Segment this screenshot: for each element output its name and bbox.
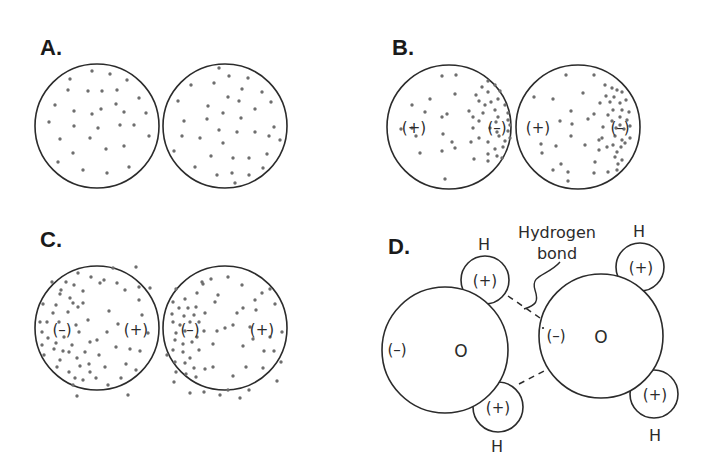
panels: A.B.(+)(–)(+)(–)C.(+)(–)(+)(–)D.O(–)(+)H… (35, 35, 678, 456)
electron-dot (96, 126, 99, 129)
electron-dot (506, 118, 509, 121)
electron-dot (209, 277, 212, 280)
electron-dot (194, 305, 197, 308)
electron-dot (64, 280, 67, 283)
electron-dot (73, 376, 76, 379)
electron-dot (173, 338, 176, 341)
electron-dot (89, 275, 92, 278)
electron-dot (606, 170, 609, 173)
panel-label: B. (392, 35, 414, 60)
electron-dot (605, 145, 608, 148)
electron-dot (260, 90, 263, 93)
electron-dot (481, 111, 484, 114)
electron-dot (569, 109, 572, 112)
panel-d: D.O(–)(+)H(+)HO(–)(+)H(+)HHydrogenbond (382, 222, 678, 456)
electron-dot (624, 98, 627, 101)
electron-dot (87, 362, 90, 365)
electron-dot (247, 388, 250, 391)
electron-dot (75, 356, 78, 359)
electron-dot (620, 138, 623, 141)
electron-dot (171, 300, 174, 303)
electron-dot (138, 349, 141, 352)
electron-dot (506, 129, 509, 132)
electron-dot (181, 342, 184, 345)
hydrogen-symbol: H (633, 222, 645, 241)
electron-dot (177, 306, 180, 309)
electron-dot (170, 312, 173, 315)
electron-dot (74, 323, 77, 326)
electron-dot (623, 141, 626, 144)
electron-dot (627, 110, 630, 113)
electron-dot (137, 285, 140, 288)
electron-dot (486, 140, 489, 143)
electron-dot (183, 361, 186, 364)
electron-dot (115, 88, 118, 91)
electron-dot (68, 77, 71, 80)
electron-dot (55, 365, 58, 368)
electron-dot (56, 160, 59, 163)
electron-dot (52, 347, 55, 350)
electron-dot (72, 109, 75, 112)
electron-dot (272, 125, 275, 128)
electron-dot (610, 86, 613, 89)
electron-dot (244, 365, 247, 368)
electron-dot (102, 278, 105, 281)
water-molecule: O(–)(+)H(+)H (382, 235, 523, 456)
electron-dot (72, 283, 75, 286)
electron-dot (107, 309, 110, 312)
electron-dot (183, 297, 186, 300)
positive-charge-label: (+) (402, 119, 426, 137)
electron-dot (241, 344, 244, 347)
electron-dot (184, 372, 187, 375)
electron-dot (192, 313, 195, 316)
electron-dot (181, 350, 184, 353)
electron-dot (115, 281, 118, 284)
electron-dot (206, 104, 209, 107)
electron-dot (50, 280, 53, 283)
negative-charge-label: (–) (610, 119, 629, 137)
electron-dot (241, 306, 244, 309)
electron-dot (477, 136, 480, 139)
electron-dot (66, 310, 69, 313)
electron-dot (227, 74, 230, 77)
electron-cloud-circle: (+)(–) (35, 265, 159, 397)
electron-dot (486, 79, 489, 82)
electron-dot (564, 73, 567, 76)
electron-dot (81, 301, 84, 304)
electron-dot (114, 102, 117, 105)
electron-dot (76, 271, 79, 274)
hydrogen-symbol: H (491, 437, 503, 456)
electron-dot (453, 146, 456, 149)
electron-dot (601, 125, 604, 128)
electron-dot (606, 113, 609, 116)
electron-dot (198, 136, 201, 139)
electron-dot (67, 370, 70, 373)
electron-dot (132, 123, 135, 126)
positive-charge-label: (+) (526, 119, 550, 137)
electron-dot (81, 289, 84, 292)
electron-dot (195, 291, 198, 294)
electron-dot (122, 110, 125, 113)
electron-dot (203, 311, 206, 314)
electron-dot (137, 96, 140, 99)
electron-dot (215, 173, 218, 176)
electron-dot (54, 341, 57, 344)
panel-label: D. (388, 234, 410, 259)
electron-dot (134, 368, 137, 371)
electron-dot (467, 109, 470, 112)
electron-dot (592, 171, 595, 174)
bond-mark (542, 327, 544, 329)
electron-dot (174, 331, 177, 334)
electron-dot (45, 320, 48, 323)
electron-dot (612, 95, 615, 98)
electron-dot (88, 370, 91, 373)
electron-dot (194, 375, 197, 378)
electron-dot (231, 323, 234, 326)
positive-charge-label: (+) (643, 386, 667, 404)
electron-dot (119, 376, 122, 379)
positive-charge-label: (+) (124, 321, 148, 339)
electron-dot (611, 108, 614, 111)
electron-dot (423, 110, 426, 113)
electron-dot (59, 288, 62, 291)
electron-dot (275, 379, 278, 382)
